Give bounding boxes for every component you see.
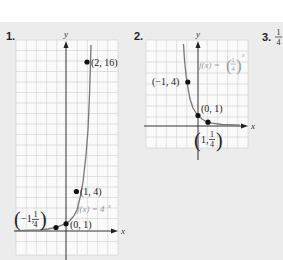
svg-text:4: 4 bbox=[210, 140, 214, 149]
svg-text:x: x bbox=[250, 121, 255, 131]
svg-text:(−1, 4): (−1, 4) bbox=[152, 76, 179, 88]
svg-text:): ) bbox=[216, 129, 223, 152]
svg-text:4: 4 bbox=[231, 65, 235, 73]
svg-text:(: ( bbox=[194, 129, 201, 152]
svg-text:1: 1 bbox=[231, 56, 235, 64]
svg-text:): ) bbox=[236, 56, 242, 75]
svg-text:f(x) = 4: f(x) = 4 bbox=[77, 204, 105, 214]
svg-text:(0, 1): (0, 1) bbox=[201, 103, 223, 115]
svg-text:(2, 16): (2, 16) bbox=[91, 57, 118, 69]
svg-text:1: 1 bbox=[210, 130, 214, 139]
svg-text:−1,: −1, bbox=[21, 213, 34, 224]
svg-text:(0, 1): (0, 1) bbox=[70, 219, 92, 231]
svg-text:(1, 4): (1, 4) bbox=[80, 186, 102, 198]
svg-text:y: y bbox=[63, 29, 68, 39]
svg-text:(: ( bbox=[14, 208, 21, 231]
svg-text:): ) bbox=[40, 208, 47, 231]
svg-text:1,: 1, bbox=[201, 134, 209, 145]
graph-2: y x (−1, 4) (0, 1) f(x) = ( 1 4 ) x ( 1,… bbox=[130, 0, 283, 160]
svg-text:x: x bbox=[120, 226, 125, 236]
svg-text:y: y bbox=[195, 29, 200, 39]
svg-text:x: x bbox=[241, 52, 245, 58]
svg-text:x: x bbox=[107, 203, 111, 209]
svg-text:f(x) =: f(x) = bbox=[199, 60, 220, 70]
svg-text:4: 4 bbox=[34, 220, 38, 229]
graph-1: y x (2, 16) (1, 4) (0, 1) f(x) = 4 x ( −… bbox=[0, 0, 140, 260]
svg-text:1: 1 bbox=[34, 210, 38, 219]
